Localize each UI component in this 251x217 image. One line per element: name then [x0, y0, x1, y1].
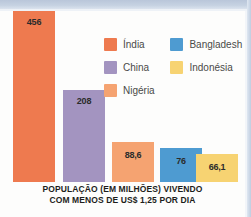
legend-item-indonsia: Indonésia — [170, 61, 246, 74]
bar-value-label: 66,1 — [209, 163, 226, 182]
legend-item-ndia: Índia — [104, 38, 158, 51]
legend-item-china: China — [104, 61, 158, 74]
bar-indonsia: 66,1 — [196, 154, 238, 182]
legend-swatch-icon — [104, 84, 117, 97]
bar-value-label: 76 — [176, 157, 186, 182]
bar-value-label: 88,6 — [125, 151, 142, 182]
legend-item-nigria: Nigéria — [104, 84, 158, 97]
legend-label: China — [123, 63, 149, 73]
legend-swatch-icon — [170, 61, 183, 74]
decorative-top-band — [0, 0, 251, 9]
bar-value-label: 208 — [77, 97, 91, 182]
legend-item-bangladesh: Bangladesh — [170, 38, 246, 51]
legend-swatch-icon — [104, 61, 117, 74]
caption-line-1: POPULAÇÃO (EM MILHÕES) VIVENDO — [0, 184, 245, 195]
legend-label: Nigéria — [123, 86, 155, 96]
legend-label: Bangladesh — [189, 40, 242, 50]
infographic-bar-chart: 45620888,67666,1 ÍndiaBangladeshChinaInd… — [0, 0, 251, 217]
bar-china: 208 — [63, 90, 105, 182]
chart-caption: POPULAÇÃO (EM MILHÕES) VIVENDO COM MENOS… — [0, 184, 245, 206]
bar-value-label: 456 — [27, 18, 41, 182]
legend-swatch-icon — [104, 38, 117, 51]
legend-label: Indonésia — [189, 63, 232, 73]
caption-line-2: COM MENOS DE US$ 1,25 POR DIA — [0, 195, 245, 206]
chart-legend: ÍndiaBangladeshChinaIndonésiaNigéria — [104, 33, 246, 102]
decorative-right-border — [247, 0, 251, 217]
bar-nigria: 88,6 — [112, 142, 154, 182]
legend-label: Índia — [123, 40, 145, 50]
bar-ndia: 456 — [13, 11, 55, 182]
legend-swatch-icon — [170, 38, 183, 51]
